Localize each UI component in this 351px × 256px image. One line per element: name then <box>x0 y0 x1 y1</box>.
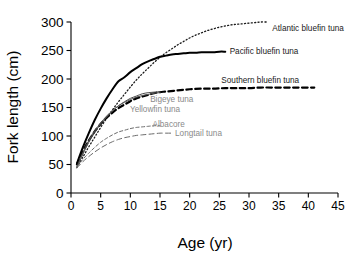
curves-group <box>77 22 314 168</box>
x-tick-label: 10 <box>124 199 138 213</box>
x-tick-label: 5 <box>97 199 104 213</box>
series-label-yellowfin-tuna: Yellowfin tuna <box>130 105 181 114</box>
series-label-southern-bluefin-tuna: Southern bluefin tuna <box>221 76 299 85</box>
y-axis-title: Fork length (cm) <box>4 51 21 164</box>
series-label-longtail-tuna: Longtail tuna <box>175 129 222 138</box>
y-tick-label: 300 <box>41 15 64 30</box>
x-tick-label: 35 <box>272 199 286 213</box>
series-label-atlantic-bluefin-tuna: Atlantic bluefin tuna <box>272 24 344 33</box>
y-tick-label: 50 <box>48 157 63 172</box>
x-tick-label: 20 <box>183 199 197 213</box>
y-tick-label: 100 <box>41 129 64 144</box>
curve-southern-bluefin-tuna <box>77 88 314 165</box>
x-tick-label: 25 <box>213 199 227 213</box>
series-labels-group: Atlantic bluefin tunaPacific bluefin tun… <box>130 24 344 138</box>
x-tick-label: 40 <box>302 199 316 213</box>
x-tick-label: 15 <box>153 199 167 213</box>
y-tick-label: 250 <box>41 43 64 58</box>
x-tick-label: 45 <box>331 199 345 213</box>
y-tick-label: 200 <box>41 72 64 87</box>
growth-curve-figure: Atlantic bluefin tunaPacific bluefin tun… <box>0 0 351 256</box>
series-label-bigeye-tuna: Bigeye tuna <box>150 95 194 104</box>
chart-canvas: Atlantic bluefin tunaPacific bluefin tun… <box>0 0 351 256</box>
y-tick-label: 150 <box>41 100 64 115</box>
y-tick-label: 0 <box>56 186 64 201</box>
x-axis-title: Age (yr) <box>177 234 232 251</box>
x-tick-label: 30 <box>242 199 256 213</box>
tick-labels-group: 050100150200250300051015202530354045 <box>41 15 345 213</box>
x-tick-label: 0 <box>68 199 75 213</box>
series-label-pacific-bluefin-tuna: Pacific bluefin tuna <box>230 47 299 56</box>
